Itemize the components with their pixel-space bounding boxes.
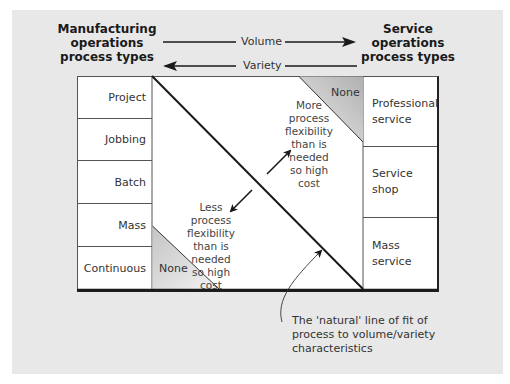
note-line: than is: [180, 240, 242, 253]
volume-label: Volume: [238, 36, 285, 48]
caption-pointer-arrow: [281, 251, 321, 322]
note-line: process: [180, 214, 242, 227]
note-line: cost: [180, 279, 242, 292]
note-line: so high: [180, 266, 242, 279]
variety-label: Variety: [240, 60, 285, 72]
note-line: flexibility: [180, 227, 242, 240]
note-line: cost: [278, 177, 340, 190]
note-line: process: [278, 112, 340, 125]
note-line: Less: [180, 201, 242, 214]
note-line: so high: [278, 164, 340, 177]
more-flexibility-note: More process flexibility than is needed …: [278, 99, 340, 190]
note-line: needed: [278, 151, 340, 164]
less-flexibility-note: Less process flexibility than is needed …: [180, 201, 242, 292]
none-label-top-right: None: [331, 86, 360, 99]
natural-fit-caption: The 'natural' line of fit of process to …: [292, 314, 435, 356]
caption-line: The 'natural' line of fit of: [292, 314, 435, 328]
caption-line: process to volume/variety: [292, 328, 435, 342]
caption-line: characteristics: [292, 342, 435, 356]
note-line: flexibility: [278, 125, 340, 138]
note-line: needed: [180, 253, 242, 266]
note-line: More: [278, 99, 340, 112]
note-line: than is: [278, 138, 340, 151]
